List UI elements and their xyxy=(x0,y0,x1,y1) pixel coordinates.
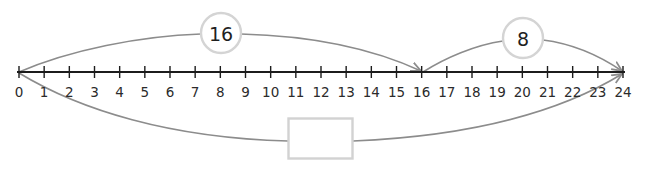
jump-label-8: 8 xyxy=(503,18,543,58)
tick-label-8: 8 xyxy=(216,84,225,100)
tick-label-14: 14 xyxy=(363,84,380,100)
tick-label-15: 15 xyxy=(388,84,405,100)
tick-label-10: 10 xyxy=(262,84,279,100)
answer-box[interactable] xyxy=(289,119,353,159)
tick-label-7: 7 xyxy=(191,84,200,100)
number-line-diagram: 0123456789101112131415161718192021222324… xyxy=(0,0,645,171)
tick-label-18: 18 xyxy=(463,84,480,100)
jump-label-16-text: 16 xyxy=(209,23,233,45)
jump-arc-16-to-24-left xyxy=(423,41,503,72)
tick-label-24: 24 xyxy=(614,84,631,100)
tick-label-17: 17 xyxy=(438,84,455,100)
answer-box-frame[interactable] xyxy=(289,119,353,159)
number-line-canvas: 0123456789101112131415161718192021222324… xyxy=(0,0,645,171)
tick-label-4: 4 xyxy=(115,84,124,100)
tick-label-23: 23 xyxy=(589,84,606,100)
jump-label-8-text: 8 xyxy=(517,28,529,50)
tick-label-3: 3 xyxy=(90,84,99,100)
jump-label-16: 16 xyxy=(201,13,241,53)
tick-label-12: 12 xyxy=(312,84,329,100)
tick-label-22: 22 xyxy=(564,84,581,100)
tick-label-6: 6 xyxy=(166,84,175,100)
jump-arc-0-to-16-left xyxy=(19,34,201,72)
jump-arc-0-to-16-right xyxy=(241,34,421,71)
tick-label-19: 19 xyxy=(489,84,506,100)
tick-label-5: 5 xyxy=(141,84,150,100)
tick-label-16: 16 xyxy=(413,84,430,100)
jump-arc-16-to-24-right xyxy=(543,40,622,71)
tick-label-21: 21 xyxy=(539,84,556,100)
tick-label-0: 0 xyxy=(15,84,24,100)
tick-label-2: 2 xyxy=(65,84,74,100)
tick-label-1: 1 xyxy=(40,84,49,100)
tick-label-9: 9 xyxy=(241,84,250,100)
tick-label-11: 11 xyxy=(287,84,304,100)
tick-label-13: 13 xyxy=(338,84,355,100)
tick-label-20: 20 xyxy=(514,84,531,100)
tick-labels: 0123456789101112131415161718192021222324 xyxy=(15,84,632,100)
